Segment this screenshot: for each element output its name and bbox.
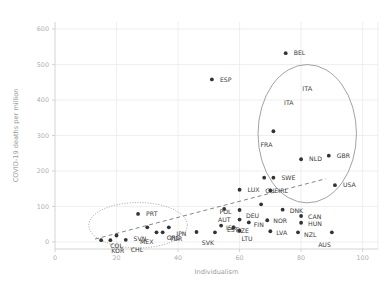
data-point-col[interactable] [115, 234, 119, 238]
data-point-usa[interactable] [333, 183, 337, 187]
data-point-tur[interactable] [167, 225, 171, 229]
x-tick-label: 0 [53, 254, 57, 262]
chart-container: 0100200300400500600020406080100Individua… [0, 0, 392, 287]
point-label-lux: LUX [248, 186, 261, 193]
grid-lines [55, 22, 378, 249]
point-label-dnk: DNK [290, 207, 304, 214]
point-label-prt: PRT [146, 210, 158, 217]
point-label-nzl: NZL [304, 231, 317, 238]
data-point-aus[interactable] [330, 230, 334, 234]
data-point-jpn[interactable] [195, 230, 199, 234]
data-point-grc[interactable] [161, 230, 165, 234]
data-point-svn[interactable] [145, 225, 149, 229]
point-label-pol: POL [220, 208, 233, 215]
point-label-aut: AUT [218, 216, 231, 223]
scatter-plot: 0100200300400500600020406080100Individua… [0, 0, 392, 287]
point-label-mex: MEX [140, 238, 154, 245]
data-point-lva[interactable] [268, 229, 272, 233]
point-label-grc: GRC [167, 234, 180, 241]
point-label-nor: NOR [273, 217, 287, 224]
y-tick-label: 200 [37, 167, 49, 175]
data-point-fra[interactable] [272, 129, 276, 133]
data-point-kor[interactable] [108, 238, 112, 242]
data-point-irl[interactable] [268, 189, 272, 193]
ellipse-label-ita: ITA [302, 85, 312, 93]
point-label-hun: HUN [308, 220, 322, 227]
data-point-dnk[interactable] [281, 208, 285, 212]
data-point-nor[interactable] [265, 218, 269, 222]
x-tick-label: 60 [236, 254, 244, 262]
data-point-deu[interactable] [259, 202, 263, 206]
point-label-svk: SVK [202, 239, 215, 246]
point-label-esp: ESP [220, 76, 232, 83]
point-label-usa: USA [343, 181, 357, 188]
x-tick-label: 80 [297, 254, 305, 262]
data-point-can[interactable] [299, 214, 303, 218]
point-label-ita: ITA [284, 99, 294, 106]
data-point-fin[interactable] [247, 220, 251, 224]
data-point-ltu[interactable] [238, 229, 242, 233]
point-label-kor: KOR [111, 247, 125, 254]
point-label-deu: DEU [246, 212, 259, 219]
x-axis-ticks: 020406080100 [53, 249, 369, 262]
point-label-chl: CHL [131, 246, 144, 253]
y-tick-label: 300 [37, 132, 49, 140]
point-label-irl: IRL [278, 187, 288, 194]
data-point-pol[interactable] [238, 208, 242, 212]
data-point-swe[interactable] [272, 176, 276, 180]
data-point-prt[interactable] [136, 212, 140, 216]
y-tick-label: 0 [45, 238, 49, 246]
data-point-bel[interactable] [284, 51, 288, 55]
y-tick-label: 500 [37, 61, 49, 69]
y-tick-label: 600 [37, 25, 49, 33]
data-point-svk[interactable] [213, 230, 217, 234]
data-point-gbr[interactable] [327, 154, 331, 158]
point-label-swe: SWE [281, 174, 295, 181]
data-point-cri[interactable] [99, 238, 103, 242]
data-points: BELESPITAFRAGBRNLDUSACHESWEIRLLUXDEUAUTP… [99, 49, 356, 254]
data-point-chl[interactable] [124, 238, 128, 242]
point-label-fra: FRA [261, 141, 274, 148]
y-tick-label: 400 [37, 96, 49, 104]
x-axis-title: Individualism [195, 268, 239, 276]
data-point-lux[interactable] [238, 188, 242, 192]
data-point-nzl[interactable] [296, 230, 300, 234]
y-axis-ticks: 0100200300400500600 [37, 25, 55, 246]
x-tick-label: 100 [357, 254, 369, 262]
x-tick-label: 20 [112, 254, 120, 262]
data-point-nld[interactable] [299, 157, 303, 161]
x-tick-label: 40 [174, 254, 182, 262]
point-label-lva: LVA [276, 229, 288, 236]
point-label-gbr: GBR [337, 152, 351, 159]
data-point-isr[interactable] [219, 224, 223, 228]
data-point-che[interactable] [262, 176, 266, 180]
y-tick-label: 100 [37, 203, 49, 211]
point-label-fin: FIN [254, 221, 264, 228]
point-label-bel: BEL [294, 49, 306, 56]
data-point-cze[interactable] [232, 226, 236, 230]
y-axis-title: COVID-19 deaths per million [12, 89, 20, 183]
point-label-nld: NLD [309, 155, 322, 162]
data-point-hun[interactable] [299, 221, 303, 225]
point-label-ltu: LTU [242, 235, 253, 242]
data-point-esp[interactable] [210, 78, 214, 82]
point-label-aus: AUS [318, 241, 331, 248]
data-point-est[interactable] [238, 218, 242, 222]
data-point-mex[interactable] [155, 230, 159, 234]
